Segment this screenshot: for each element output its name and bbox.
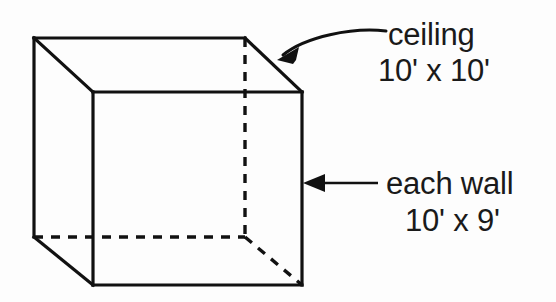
ceiling-dimensions: 10' x 10' bbox=[378, 53, 490, 88]
room-diagram: Room dimensions diagram bbox=[0, 0, 556, 302]
wall-dimensions: 10' x 9' bbox=[405, 203, 500, 238]
hidden-edge-floor-diagonal-right bbox=[245, 237, 302, 285]
ceiling-pointer bbox=[277, 30, 386, 64]
solid-edge-depth-top-right bbox=[245, 38, 302, 92]
solid-edge-depth-top-left bbox=[34, 38, 93, 92]
wall-arrow-head bbox=[303, 174, 325, 192]
diagram-canvas: Room dimensions diagram bbox=[0, 0, 556, 302]
wall-pointer bbox=[303, 174, 378, 192]
ceiling-arrow-curve bbox=[283, 30, 386, 55]
solid-edge-depth-bottom-left bbox=[34, 237, 93, 285]
ceiling-label: ceiling bbox=[388, 17, 474, 52]
wall-label: each wall bbox=[386, 166, 513, 201]
solid-edges-group bbox=[34, 38, 302, 285]
